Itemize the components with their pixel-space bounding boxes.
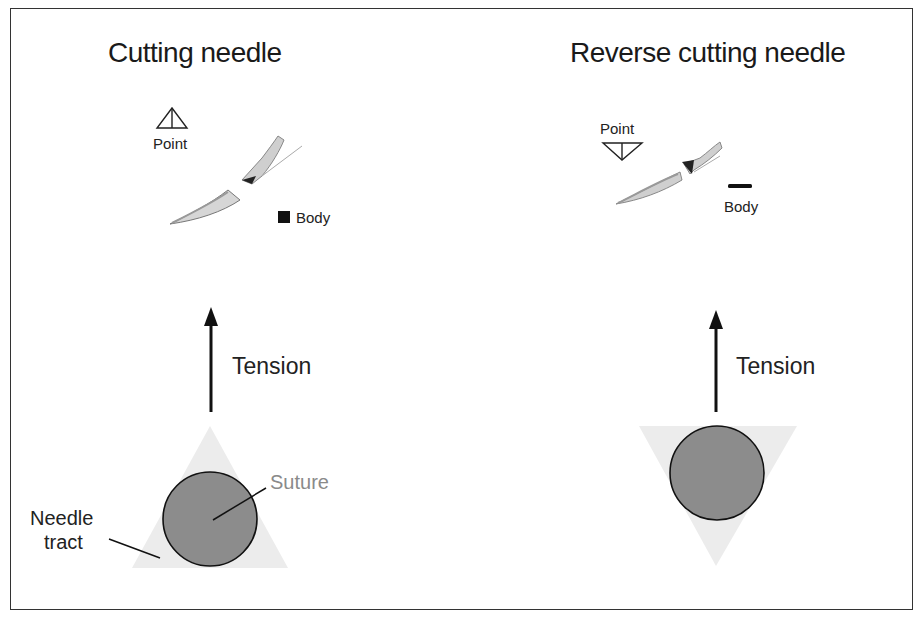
tension-label: Tension [232, 353, 311, 379]
point-label: Point [600, 120, 635, 137]
tension-label: Tension [736, 353, 815, 379]
body-bar-icon [728, 184, 752, 188]
suture-circle [670, 426, 764, 520]
body-square-icon [278, 211, 290, 223]
body-label: Body [296, 209, 331, 226]
point-triangle-down-icon [603, 143, 642, 160]
tension-arrow-icon [204, 307, 218, 412]
needle-diagram: Cutting needle Point Body Tension [0, 0, 924, 618]
body-label: Body [724, 198, 759, 215]
panel-title-cutting: Cutting needle [108, 37, 282, 68]
cutting-needle-illustration [170, 136, 302, 224]
needle-tract-label-line2: tract [44, 531, 83, 553]
panel-cutting-needle: Cutting needle Point Body Tension [30, 37, 331, 568]
suture-circle [163, 472, 257, 566]
panel-title-reverse-cutting: Reverse cutting needle [570, 37, 845, 68]
needle-tract-label-line1: Needle [30, 507, 93, 529]
point-triangle-up-icon [157, 108, 187, 128]
point-label: Point [153, 135, 188, 152]
panel-reverse-cutting-needle: Reverse cutting needle Point Body Tensio… [570, 37, 845, 566]
tension-arrow-icon [709, 310, 723, 412]
suture-label: Suture [270, 471, 329, 493]
